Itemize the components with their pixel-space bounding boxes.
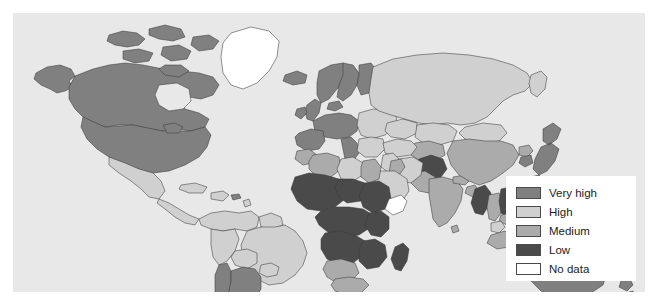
- region-egypt[interactable]: [361, 159, 381, 183]
- region-madagascar[interactable]: [391, 243, 409, 271]
- legend-swatch-high: [516, 206, 541, 218]
- region-russia[interactable]: [369, 53, 533, 125]
- region-india[interactable]: [429, 177, 463, 227]
- region-south-africa[interactable]: [331, 277, 369, 292]
- region-argentina[interactable]: [227, 267, 261, 292]
- region-kamchatka[interactable]: [529, 71, 547, 97]
- legend-item-no-data[interactable]: No data: [516, 260, 597, 277]
- world-map-figure: Very high High Medium Low No data: [0, 0, 659, 308]
- region-east-africa[interactable]: [365, 211, 389, 237]
- map-legend: Very high High Medium Low No data: [506, 176, 636, 281]
- region-united-kingdom[interactable]: [305, 99, 321, 121]
- region-chile[interactable]: [215, 263, 231, 292]
- legend-item-list: Very high High Medium Low No data: [516, 184, 597, 277]
- region-balkans[interactable]: [357, 137, 385, 157]
- legend-swatch-low: [516, 244, 541, 256]
- region-puerto-rico[interactable]: [231, 194, 241, 200]
- region-cuba[interactable]: [179, 183, 207, 193]
- region-sri-lanka[interactable]: [451, 225, 459, 233]
- region-kazakhstan[interactable]: [415, 123, 457, 145]
- map-canvas: Very high High Medium Low No data: [13, 13, 645, 292]
- region-libya[interactable]: [337, 157, 363, 181]
- legend-label-very-high: Very high: [549, 187, 597, 199]
- region-south-korea[interactable]: [519, 155, 533, 167]
- legend-swatch-no-data: [516, 263, 541, 275]
- region-zambia-mozambique[interactable]: [359, 239, 387, 269]
- legend-label-no-data: No data: [549, 263, 589, 275]
- region-iberia[interactable]: [295, 129, 325, 151]
- region-ireland[interactable]: [295, 107, 307, 119]
- legend-swatch-very-high: [516, 187, 541, 199]
- legend-item-low[interactable]: Low: [516, 241, 597, 258]
- legend-item-medium[interactable]: Medium: [516, 222, 597, 239]
- region-central-america[interactable]: [157, 199, 199, 225]
- legend-label-medium: Medium: [549, 225, 590, 237]
- region-colombia-venezuela[interactable]: [199, 211, 259, 231]
- legend-swatch-medium: [516, 225, 541, 237]
- legend-label-high: High: [549, 206, 573, 218]
- region-denmark[interactable]: [327, 101, 343, 111]
- legend-item-very-high[interactable]: Very high: [516, 184, 597, 201]
- region-greenland[interactable]: [221, 27, 279, 89]
- legend-label-low: Low: [549, 244, 570, 256]
- region-lesser-antilles[interactable]: [243, 199, 251, 207]
- region-hispaniola[interactable]: [211, 191, 229, 201]
- region-iceland[interactable]: [283, 71, 307, 85]
- legend-item-high[interactable]: High: [516, 203, 597, 220]
